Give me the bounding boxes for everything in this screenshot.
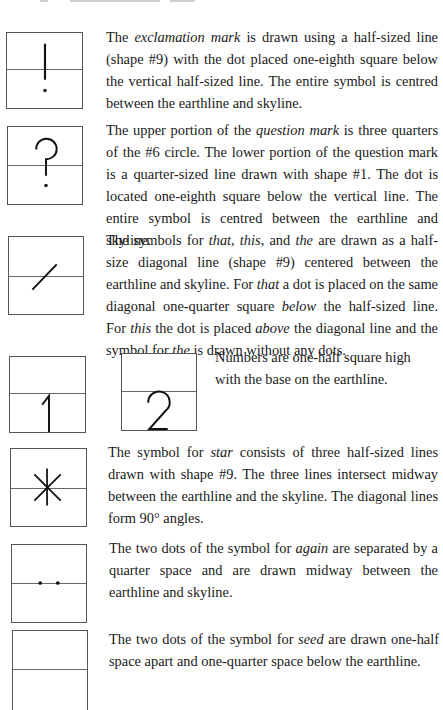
text-run: The two dots of the symbol for bbox=[109, 631, 298, 647]
two-dots-midline-glyph-icon bbox=[12, 545, 86, 622]
text-run: The upper portion of the bbox=[106, 122, 256, 138]
emphasized-term: question mark bbox=[256, 122, 339, 138]
text-run: The symbols for bbox=[106, 232, 209, 248]
emphasized-term: again bbox=[296, 540, 329, 556]
number-one-box bbox=[9, 356, 86, 433]
exclamation-glyph-icon bbox=[7, 33, 82, 108]
star-glyph-icon bbox=[11, 449, 86, 526]
entry-text: The exclamation mark is drawn using a ha… bbox=[106, 26, 438, 114]
seed-symbol-box bbox=[12, 630, 88, 710]
running-head-fragment bbox=[40, 0, 200, 4]
emphasized-term: below bbox=[282, 298, 316, 314]
number-two-box bbox=[121, 353, 197, 431]
entry-text: Numbers are one-half square high with th… bbox=[215, 346, 439, 390]
entry-text: The symbol for star consists of three ha… bbox=[108, 441, 438, 529]
exclamation-symbol-box bbox=[6, 32, 83, 109]
question-symbol-box bbox=[7, 126, 83, 205]
again-symbol-box bbox=[11, 544, 87, 623]
question-glyph-icon bbox=[8, 127, 82, 204]
text-run: Numbers are one-half square high with th… bbox=[215, 349, 411, 387]
star-symbol-box bbox=[10, 448, 87, 527]
entry-text: The symbols for that, this, and the are … bbox=[106, 229, 438, 361]
two-dots-below-glyph-icon bbox=[13, 631, 87, 710]
text-run: The symbol for bbox=[108, 444, 210, 460]
emphasized-term: the bbox=[295, 232, 313, 248]
emphasized-term: exclamation mark bbox=[134, 29, 240, 45]
text-run: , and bbox=[261, 232, 296, 248]
emphasized-term: above bbox=[255, 320, 289, 336]
text-run: The bbox=[106, 29, 134, 45]
emphasized-term: that bbox=[257, 276, 279, 292]
diagonal-symbol-box bbox=[8, 236, 84, 315]
emphasized-term: this bbox=[130, 320, 151, 336]
digit-two-glyph-icon bbox=[122, 354, 196, 430]
text-run: The two dots of the symbol for bbox=[109, 540, 296, 556]
digit-one-glyph-icon bbox=[10, 357, 85, 432]
text-run: , bbox=[231, 232, 240, 248]
emphasized-term: seed bbox=[298, 631, 324, 647]
text-run: the dot is placed bbox=[151, 320, 255, 336]
emphasized-term: that bbox=[209, 232, 231, 248]
diagonal-line-glyph-icon bbox=[9, 237, 83, 314]
emphasized-term: star bbox=[210, 444, 232, 460]
entry-text: The two dots of the symbol for seed are … bbox=[109, 628, 439, 672]
entry-text: The two dots of the symbol for again are… bbox=[109, 537, 438, 603]
emphasized-term: this bbox=[240, 232, 261, 248]
